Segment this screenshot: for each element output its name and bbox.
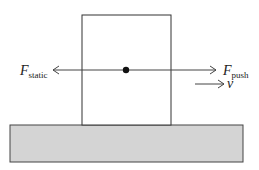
static-force-label: Fstatic: [19, 63, 48, 80]
ground-surface: [10, 125, 243, 162]
free-body-diagram: Fstatic Fpush v: [0, 0, 259, 170]
velocity-label: v: [227, 76, 234, 91]
center-of-mass-dot: [123, 67, 129, 73]
